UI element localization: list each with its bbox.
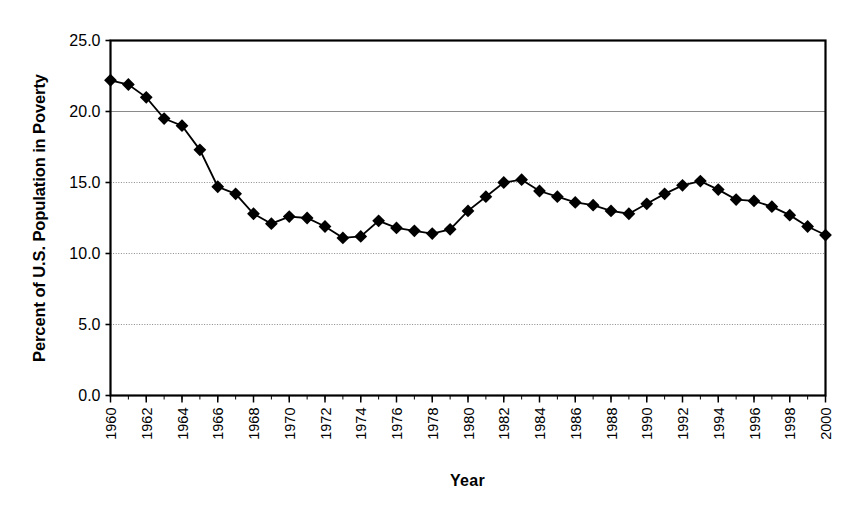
x-axis-tick-label: 1966 [210, 408, 226, 440]
y-axis-tick-labels-group: 0.05.010.015.020.025.0 [69, 32, 100, 404]
data-point-marker [533, 185, 546, 198]
data-point-marker [587, 199, 600, 212]
data-point-marker [283, 210, 296, 223]
data-point-marker [301, 212, 314, 225]
data-point-marker [765, 200, 778, 213]
x-axis-tick-labels-group: 1960196219641966196819701972197419761978… [103, 408, 834, 440]
x-axis-tick-label: 1990 [639, 408, 655, 440]
y-axis-tick-label: 25.0 [69, 32, 100, 49]
x-axis-tick-label: 1996 [747, 408, 763, 440]
data-point-marker [390, 222, 403, 235]
x-axis-tick-label: 1988 [604, 408, 620, 440]
data-point-marker [605, 205, 618, 218]
data-point-marker [193, 143, 206, 156]
x-axis-major-ticks-group [111, 396, 826, 403]
x-axis-tick-label: 2000 [818, 408, 834, 440]
y-axis-tick-label: 20.0 [69, 103, 100, 120]
x-axis-tick-label: 1992 [675, 408, 691, 440]
axes-box [111, 41, 826, 396]
data-point-marker [104, 74, 117, 87]
x-axis-tick-label: 1974 [353, 408, 369, 440]
x-axis-tick-label: 1980 [461, 408, 477, 440]
data-point-marker [319, 220, 332, 233]
data-point-marker [408, 224, 421, 237]
data-point-marker [551, 190, 564, 203]
y-axis-tick-label: 15.0 [69, 174, 100, 191]
data-point-marker [336, 231, 349, 244]
y-axis-tick-label: 10.0 [69, 245, 100, 262]
y-axis-tick-label: 5.0 [78, 316, 100, 333]
x-axis-tick-label: 1982 [496, 408, 512, 440]
data-point-marker [801, 220, 814, 233]
plot-area: 0.05.010.015.020.025.0 19601962196419661… [0, 0, 861, 524]
data-point-marker [622, 207, 635, 220]
plot-frame [111, 41, 826, 396]
data-point-marker [712, 183, 725, 196]
x-axis-tick-label: 1986 [568, 408, 584, 440]
data-series-markers [104, 74, 832, 244]
data-point-marker [694, 175, 707, 188]
x-axis-tick-label: 1998 [782, 408, 798, 440]
y-axis-tick-label: 0.0 [78, 387, 100, 404]
data-point-marker [748, 195, 761, 208]
x-axis-tick-label: 1962 [139, 408, 155, 440]
data-point-marker [265, 217, 278, 230]
x-axis-tick-label: 1978 [425, 408, 441, 440]
x-axis-tick-label: 1968 [246, 408, 262, 440]
data-point-marker [176, 119, 189, 132]
data-point-marker [730, 193, 743, 206]
data-point-marker [819, 229, 832, 242]
data-point-marker [122, 78, 135, 91]
data-point-marker [211, 180, 224, 193]
poverty-rate-chart-figure: Percent of U.S. Population in Poverty Ye… [0, 0, 861, 524]
data-point-marker [426, 227, 439, 240]
data-point-marker [640, 197, 653, 210]
data-point-marker [569, 196, 582, 209]
x-axis-tick-label: 1984 [532, 408, 548, 440]
data-point-marker [676, 179, 689, 192]
data-point-marker [658, 187, 671, 200]
x-axis-tick-label: 1960 [103, 408, 119, 440]
data-point-marker [515, 173, 528, 186]
x-axis-tick-label: 1970 [282, 408, 298, 440]
x-axis-tick-label: 1964 [175, 408, 191, 440]
x-axis-tick-label: 1976 [389, 408, 405, 440]
x-axis-tick-label: 1994 [711, 408, 727, 440]
data-point-marker [783, 209, 796, 222]
x-axis-tick-label: 1972 [318, 408, 334, 440]
